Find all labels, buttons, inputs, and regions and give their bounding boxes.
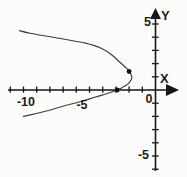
graph-figure: -10-505-5XY [0,0,187,177]
y-tick-label-neg5: -5 [138,148,149,162]
x-axis-label: X [160,71,169,86]
y-tick-label-5: 5 [144,15,151,29]
y-axis-arrow-icon [150,8,161,19]
plot-svg: -10-505-5XY [0,0,187,177]
x-intercept-point [115,88,120,93]
x-tick-label-0: 0 [146,92,153,106]
x-tick-label-neg10: -10 [17,95,35,109]
x-tick-label-neg5: -5 [76,98,87,112]
vertex-point [127,69,132,74]
y-axis-label: Y [161,8,170,23]
